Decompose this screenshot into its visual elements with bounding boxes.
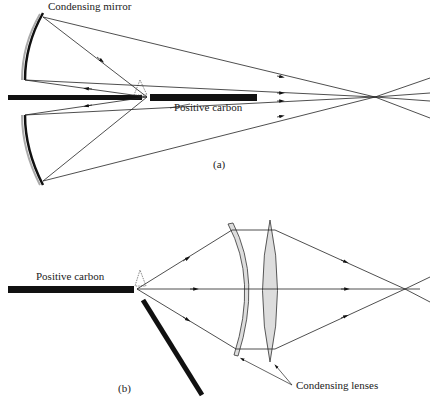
label-condensing-mirror: Condensing mirror [48, 0, 132, 12]
panel-b-label: (b) [118, 382, 131, 395]
negative-carbon-b [143, 300, 202, 395]
label-condensing-lenses: Condensing lenses [296, 379, 378, 391]
label-positive-carbon-b: Positive carbon [36, 270, 105, 282]
biconvex-lens [263, 220, 278, 362]
meniscus-lens [228, 223, 249, 356]
positive-carbon-b [8, 286, 134, 293]
panel-a: Condensing mirror Positive carbon (a) [8, 0, 430, 185]
label-positive-carbon-a: Positive carbon [174, 101, 243, 113]
panel-b: Positive carbon Condensing lenses (b) [8, 220, 430, 395]
mirror-upper [25, 13, 43, 80]
optics-diagram: Condensing mirror Positive carbon (a) [0, 0, 440, 408]
negative-carbon [8, 95, 142, 100]
positive-carbon [150, 94, 257, 101]
panel-a-label: (a) [213, 158, 226, 171]
